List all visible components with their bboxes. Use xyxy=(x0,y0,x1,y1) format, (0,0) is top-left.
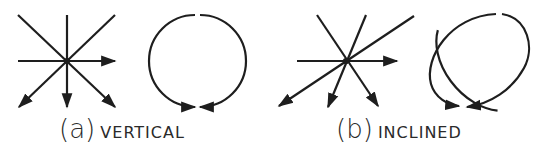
caption-a-text: VERTICAL xyxy=(100,123,185,142)
vertical-vector-star xyxy=(18,15,115,107)
inclined-ellipse-path xyxy=(420,14,529,122)
vertical-circle-path xyxy=(149,15,246,107)
caption-a: (a) VERTICAL xyxy=(59,114,185,144)
inclined-vector-star xyxy=(279,15,414,107)
caption-b: (b) INCLINED xyxy=(336,114,462,144)
caption-a-letter: (a) xyxy=(59,114,95,144)
caption-b-letter: (b) xyxy=(336,114,373,144)
caption-b-text: INCLINED xyxy=(378,123,462,142)
diagram: (a) VERTICAL (b) INCLINED xyxy=(0,0,548,153)
